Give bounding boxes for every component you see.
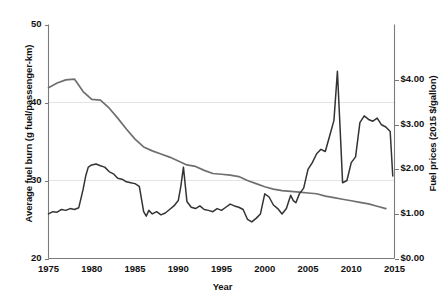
chart-figure: Average fuel burn (g fuel/passenger-km) … [0,0,445,302]
axis-lines [49,25,395,259]
plot-area [0,0,445,302]
data-series [49,71,393,222]
